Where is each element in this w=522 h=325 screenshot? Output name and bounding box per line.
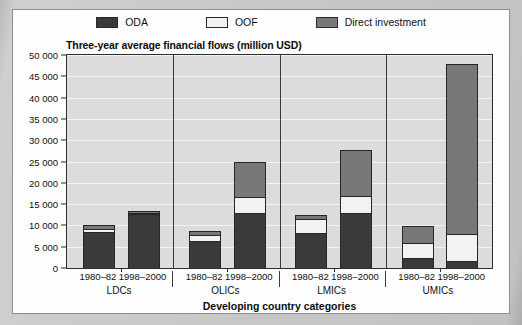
plot-area [66,54,493,269]
group-separator [386,55,387,268]
x-axis-title: Developing country categories [66,300,493,312]
y-axis-tick-label: 40 000 [29,92,58,103]
y-axis-tick-label: 35 000 [29,113,58,124]
x-axis-group-label-ldcs: LDCs [107,285,132,296]
bar-segment-oof [296,220,326,234]
y-axis-tick-label: 45 000 [29,71,58,82]
legend-item-direct-investment: Direct investment [316,16,426,28]
chart-legend: ODA OOF Direct investment [13,16,509,28]
legend-item-oda: ODA [96,16,148,28]
group-label-separator [385,271,386,287]
x-axis-group-label-umics: UMICs [423,285,454,296]
legend-label-direct-investment: Direct investment [345,16,426,28]
bar-lmics-1980-82 [295,215,327,268]
bar-ldcs-1980-82 [83,225,115,268]
bar-umics-1998-2000 [446,64,478,268]
bar-umics-1980-82 [402,226,434,268]
x-axis-period-label: 1980–82 [398,271,435,282]
x-axis-group-labels: LDCsOLICsLMICsUMICs [66,285,493,299]
bar-segment-oda [190,242,220,268]
x-axis-period-label: 1998–2000 [225,271,273,282]
y-axis: 05 00010 00015 00020 00025 00030 00035 0… [13,54,66,269]
bar-segment-oda [296,234,326,268]
bar-segment-direct-investment [235,163,265,198]
x-axis-period-label: 1998–2000 [119,271,167,282]
bar-ldcs-1998-2000 [128,211,160,269]
group-label-separator [279,271,280,287]
chart-card: ODA OOF Direct investment Three-year ave… [12,9,510,314]
bar-segment-oof [403,244,433,259]
bar-segment-oda [129,215,159,268]
bar-segment-oda [447,262,477,268]
legend-swatch-oda [96,17,118,28]
y-axis-tick-label: 30 000 [29,135,58,146]
screenshot-page: ODA OOF Direct investment Three-year ave… [0,0,522,325]
y-axis-tick-label: 25 000 [29,156,58,167]
bar-segment-oof [235,198,265,213]
x-axis-period-labels: 1980–821998–20001980–821998–20001980–821… [66,271,493,285]
y-axis-tick-label: 20 000 [29,177,58,188]
y-axis-tick-label: 50 000 [29,50,58,61]
legend-swatch-direct-investment [316,17,338,28]
bar-olics-1980-82 [189,231,221,268]
bar-segment-oof [447,235,477,262]
legend-label-oof: OOF [235,16,258,28]
x-axis-group-label-olics: OLICs [211,285,239,296]
group-label-separator [172,271,173,287]
group-separator [173,55,174,268]
y-axis-tick-label: 5 000 [34,241,58,252]
legend-label-oda: ODA [125,16,148,28]
x-axis-period-label: 1980–82 [79,271,116,282]
plot-area-wrapper [66,54,493,269]
chart-title: Three-year average financial flows (mill… [66,39,302,51]
x-axis-period-label: 1998–2000 [331,271,379,282]
x-axis-period-label: 1980–82 [292,271,329,282]
bar-lmics-1998-2000 [340,150,372,268]
bar-segment-direct-investment [341,151,371,197]
y-axis-tick-label: 0 [53,263,58,274]
y-axis-tick-label: 15 000 [29,199,58,210]
x-axis-period-label: 1980–82 [186,271,223,282]
bar-segment-direct-investment [447,65,477,235]
bar-segment-oda [235,214,265,268]
x-axis-group-label-lmics: LMICs [317,285,346,296]
group-separator [280,55,281,268]
legend-swatch-oof [206,17,228,28]
bar-segment-oda [341,214,371,268]
y-axis-tick-label: 10 000 [29,220,58,231]
bar-segment-oda [403,259,433,268]
bar-segment-direct-investment [403,227,433,244]
bar-olics-1998-2000 [234,162,266,268]
x-axis-period-label: 1998–2000 [437,271,485,282]
bar-segment-oda [84,233,114,268]
legend-item-oof: OOF [206,16,258,28]
bar-segment-oof [341,197,371,213]
